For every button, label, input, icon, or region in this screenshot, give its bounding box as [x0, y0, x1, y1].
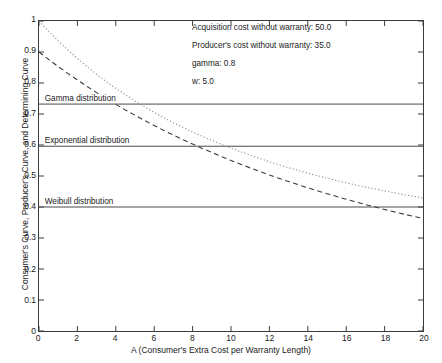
x-tick-label: 12: [265, 334, 274, 343]
x-axis-title: A (Consumer's Extra Cost per Warranty Le…: [0, 345, 442, 355]
annotation-text-block: Acquisition cost without warranty: 50.0P…: [192, 23, 422, 95]
x-tick-label: 8: [190, 334, 195, 343]
annotation-line-1: Producer's cost without warranty: 35.0: [192, 41, 422, 50]
x-tick-label: 18: [381, 334, 390, 343]
reference-line-label-0: Gamma distribution: [45, 94, 118, 103]
reference-line-label-2: Weibull distribution: [45, 197, 116, 206]
x-tick-label: 14: [303, 334, 312, 343]
annotation-line-0: Acquisition cost without warranty: 50.0: [192, 23, 422, 32]
x-tick-label: 20: [419, 334, 428, 343]
figure: 00.10.20.30.40.50.60.70.80.91 0246810121…: [0, 0, 442, 363]
x-tick-label: 10: [226, 334, 235, 343]
x-tick-label: 2: [74, 334, 79, 343]
x-tick-label: 4: [113, 334, 118, 343]
x-tick-label: 6: [151, 334, 156, 343]
y-axis-title-wrapper: Consumer's Curve, Producer's Curve, and …: [14, 14, 26, 334]
annotation-line-3: w: 5.0: [192, 77, 422, 86]
reference-line-label-1: Exponential distribution: [45, 136, 132, 145]
x-tick-label: 0: [36, 334, 41, 343]
annotation-line-2: gamma: 0.8: [192, 59, 422, 68]
y-axis-title: Consumer's Curve, Producer's Curve, and …: [20, 58, 30, 290]
x-tick-label: 16: [342, 334, 351, 343]
